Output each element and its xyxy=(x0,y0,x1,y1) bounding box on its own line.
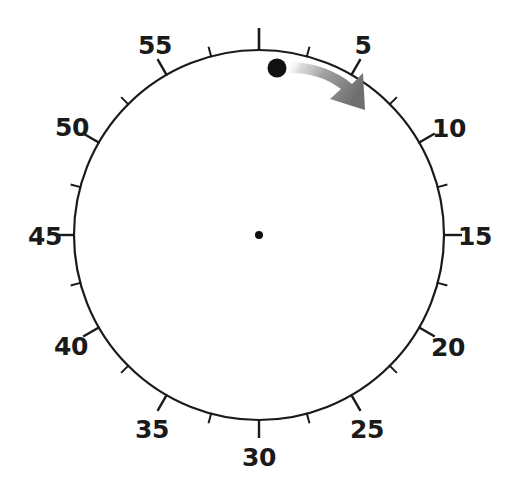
tick-mark xyxy=(121,365,129,373)
tick-label-50: 50 xyxy=(55,113,89,142)
tick-mark xyxy=(158,394,168,410)
tick-label-15: 15 xyxy=(458,222,492,251)
tick-mark xyxy=(437,283,448,286)
tick-mark xyxy=(351,394,361,410)
tick-mark xyxy=(307,47,310,58)
tick-mark xyxy=(158,59,168,75)
tick-mark xyxy=(121,97,129,105)
tick-label-10: 10 xyxy=(432,114,466,143)
tick-label-20: 20 xyxy=(431,333,465,362)
tick-mark xyxy=(351,59,361,75)
clock-dial-canvas: 555101520253035404550 xyxy=(0,0,508,486)
tick-mark xyxy=(307,413,310,424)
tick-mark xyxy=(437,185,448,188)
tick-label-35: 35 xyxy=(135,415,169,444)
tick-mark xyxy=(209,413,212,424)
tick-mark xyxy=(71,185,82,188)
tick-mark xyxy=(71,283,82,286)
tick-label-55: 55 xyxy=(138,31,172,60)
clock-dial-figure: 555101520253035404550 xyxy=(0,0,508,486)
tick-mark xyxy=(389,97,397,105)
tick-label-45: 45 xyxy=(28,222,62,251)
tick-label-40: 40 xyxy=(54,332,88,361)
tick-label-25: 25 xyxy=(350,415,384,444)
tick-label-30: 30 xyxy=(242,443,276,472)
dial-tick-labels: 555101520253035404550 xyxy=(28,31,492,472)
dial-center-dot xyxy=(255,231,263,239)
dial-marker-dot xyxy=(268,59,287,78)
tick-mark xyxy=(389,365,397,373)
tick-mark xyxy=(209,47,212,58)
tick-label-5: 5 xyxy=(355,31,372,60)
